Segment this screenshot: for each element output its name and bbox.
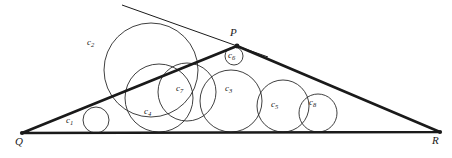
circle-label-c2: c2 xyxy=(87,38,94,47)
geometry-figure: Q P R c1 c2 c3 c4 c5 c6 c7 c8 xyxy=(0,0,452,158)
circle-c7 xyxy=(158,63,216,121)
vertex-dot-p xyxy=(235,44,240,49)
circle-label-c4: c4 xyxy=(144,107,151,116)
vertex-label-p: P xyxy=(230,27,237,38)
circle-c8 xyxy=(299,94,337,132)
circle-label-c8: c8 xyxy=(309,98,316,107)
circle-c2 xyxy=(104,23,198,117)
circle-label-c7: c7 xyxy=(176,84,183,93)
circle-label-c5: c5 xyxy=(271,100,278,109)
circle-c3 xyxy=(200,70,262,132)
circle-c5 xyxy=(257,80,309,132)
circle-label-c6: c6 xyxy=(228,51,235,60)
vertex-label-r: R xyxy=(432,135,439,146)
vertex-label-q: Q xyxy=(15,136,23,147)
circle-c1 xyxy=(83,107,109,133)
circle-label-c1: c1 xyxy=(66,116,73,125)
circle-label-c3: c3 xyxy=(225,84,232,93)
circles-group xyxy=(83,23,337,133)
geometry-canvas xyxy=(0,0,452,158)
